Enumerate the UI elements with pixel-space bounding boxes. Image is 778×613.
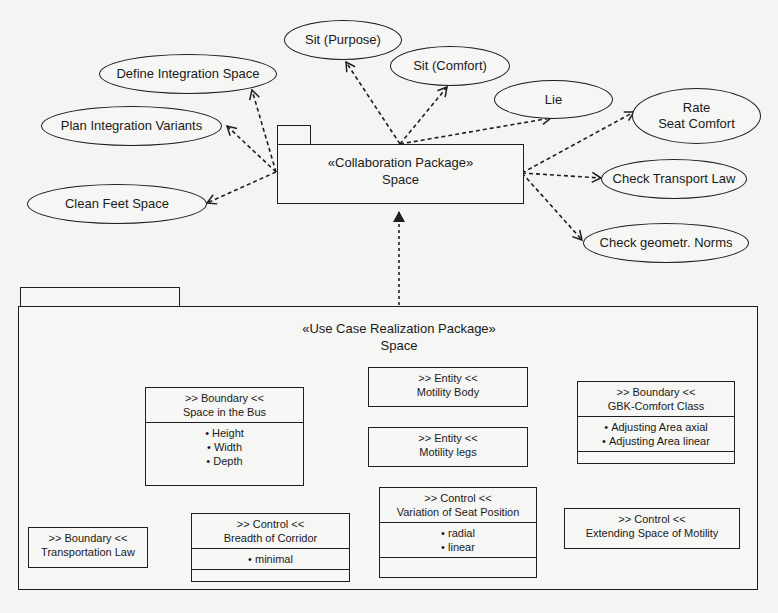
class-extending-space-of-motility[interactable]: >> Control << Extending Space of Motilit… xyxy=(564,508,740,549)
class-attribute: Adjusting Area linear xyxy=(580,434,732,448)
class-attribute: Adjusting Area axial xyxy=(580,420,732,434)
dependency-clean-feet-space xyxy=(207,172,276,203)
class-operations-compartment xyxy=(192,569,349,577)
usecase-label: Plan Integration Variants xyxy=(61,118,202,134)
usecase-label: Sit (Purpose) xyxy=(305,32,381,48)
dependency-plan-integration-variants xyxy=(227,126,276,172)
usecase-label: Check geometr. Norms xyxy=(600,235,733,251)
realization-package-name: Space xyxy=(18,337,778,354)
usecase-clean-feet-space[interactable]: Clean Feet Space xyxy=(27,184,207,224)
dependency-sit-comfort xyxy=(400,87,447,144)
class-motility-legs[interactable]: >> Entity << Motility legs xyxy=(368,427,528,467)
usecase-lie[interactable]: Lie xyxy=(494,80,613,119)
usecase-plan-integration-variants[interactable]: Plan Integration Variants xyxy=(41,106,222,146)
class-name: Motility Body xyxy=(371,385,525,399)
class-operations-compartment xyxy=(380,557,536,565)
class-attribute: minimal xyxy=(194,552,347,566)
usecase-check-transport-law[interactable]: Check Transport Law xyxy=(601,159,747,199)
realization-package-tab xyxy=(20,287,180,308)
class-attribute: linear xyxy=(382,540,534,554)
class-stereotype: >> Boundary << xyxy=(148,391,301,405)
dependency-check-geometr-norms xyxy=(522,173,582,240)
usecase-label: Sit (Comfort) xyxy=(413,58,487,74)
dependency-lie xyxy=(400,118,551,144)
class-stereotype: >> Control << xyxy=(382,491,534,505)
class-transportation-law[interactable]: >> Boundary << Transportation Law xyxy=(28,527,148,568)
class-gbk-comfort[interactable]: >> Boundary << GBK-Comfort Class Adjusti… xyxy=(577,381,735,464)
class-stereotype: >> Entity << xyxy=(371,431,525,445)
class-attribute: Depth xyxy=(148,454,301,468)
collaboration-package-name: Space xyxy=(277,171,524,188)
collaboration-package-tab xyxy=(277,125,311,146)
class-name: Transportation Law xyxy=(31,545,145,559)
usecase-define-integration-space[interactable]: Define Integration Space xyxy=(99,54,277,94)
usecase-label: Define Integration Space xyxy=(116,66,259,82)
class-stereotype: >> Boundary << xyxy=(580,385,732,399)
usecase-label: Check Transport Law xyxy=(613,171,736,187)
class-space-in-the-bus[interactable]: >> Boundary << Space in the Bus Height W… xyxy=(145,387,304,486)
class-stereotype: >> Boundary << xyxy=(31,531,145,545)
class-stereotype: >> Entity << xyxy=(371,371,525,385)
class-attribute: Height xyxy=(148,426,301,440)
collaboration-package-title: «Collaboration Package» Space xyxy=(277,154,524,188)
class-name: Breadth of Corridor xyxy=(194,531,347,545)
usecase-label-line1: Rate xyxy=(658,100,735,116)
usecase-sit-purpose[interactable]: Sit (Purpose) xyxy=(284,20,402,60)
dependency-check-transport-law xyxy=(522,173,601,178)
usecase-rate-seat-comfort[interactable]: Rate Seat Comfort xyxy=(632,88,761,144)
dependency-rate-seat-comfort xyxy=(522,112,634,173)
uml-diagram-canvas: «Collaboration Package» Space Sit (Purpo… xyxy=(0,0,778,613)
realization-package-title: «Use Case Realization Package» Space xyxy=(18,320,778,354)
usecase-sit-comfort[interactable]: Sit (Comfort) xyxy=(390,46,510,86)
class-attribute: radial xyxy=(382,526,534,540)
class-operations-compartment xyxy=(578,451,734,459)
class-name: Motility legs xyxy=(371,445,525,459)
class-variation-of-seat-position[interactable]: >> Control << Variation of Seat Position… xyxy=(379,487,537,578)
realization-package-stereotype: «Use Case Realization Package» xyxy=(18,320,778,337)
class-stereotype: >> Control << xyxy=(567,512,737,526)
usecase-label-line2: Seat Comfort xyxy=(658,116,735,132)
class-name: GBK-Comfort Class xyxy=(580,399,732,413)
class-motility-body[interactable]: >> Entity << Motility Body xyxy=(368,367,528,407)
class-name: Variation of Seat Position xyxy=(382,505,534,519)
usecase-label: Lie xyxy=(545,92,562,108)
class-stereotype: >> Control << xyxy=(194,517,347,531)
class-attribute: Width xyxy=(148,440,301,454)
class-breadth-of-corridor[interactable]: >> Control << Breadth of Corridor minima… xyxy=(191,513,350,582)
dependency-sit-purpose xyxy=(346,62,400,144)
usecase-check-geometr-norms[interactable]: Check geometr. Norms xyxy=(583,223,749,263)
class-name: Space in the Bus xyxy=(148,405,301,419)
dependency-define-integration-space xyxy=(252,90,276,172)
usecase-label: Clean Feet Space xyxy=(65,196,169,212)
collaboration-package-stereotype: «Collaboration Package» xyxy=(277,154,524,171)
class-name: Extending Space of Motility xyxy=(567,526,737,540)
